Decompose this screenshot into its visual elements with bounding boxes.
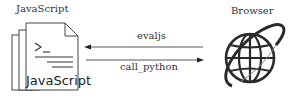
evaljs-arrow [84,45,203,50]
diagram-canvas: JavaScript [0,0,289,98]
globe-icon [226,25,284,86]
call-python-arrowhead [197,58,204,63]
call-python-label: call_python [120,61,178,72]
evaljs-arrowhead [84,45,91,50]
document-label: JavaScript [25,73,91,88]
evaljs-label: evaljs [137,30,166,41]
